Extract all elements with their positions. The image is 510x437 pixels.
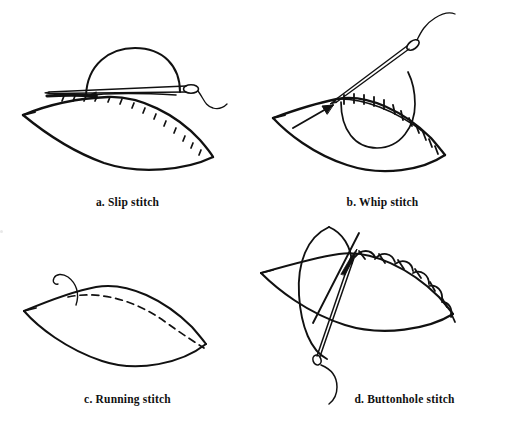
needle <box>312 249 357 366</box>
stitched-seam-dark <box>47 95 96 96</box>
stitch-tick <box>401 111 403 120</box>
needle-point <box>45 92 49 94</box>
needle-eye <box>405 38 421 53</box>
stitch-tick <box>143 108 145 113</box>
panel-slip-stitch: a. Slip stitch <box>0 0 255 218</box>
slip-stitch-illustration <box>0 0 255 190</box>
needle-shaft-top <box>335 46 407 100</box>
stitch-tick <box>154 114 156 119</box>
panel-caption-whip-stitch: b. Whip stitch <box>255 196 510 208</box>
arrow-head <box>322 105 333 114</box>
needle-shaft-bottom <box>49 92 186 94</box>
figure-root: a. Slip stitch <box>0 0 510 437</box>
thread-tail <box>417 13 455 40</box>
fabric-outline-upper <box>273 98 445 155</box>
fabric-outline-lower <box>24 311 206 366</box>
panel-buttonhole-stitch: d. Buttonhole stitch <box>255 219 510 437</box>
stitch-tick <box>132 103 134 108</box>
whip-stitch-illustration <box>255 0 510 190</box>
fabric-outline-upper <box>23 97 213 157</box>
needle <box>330 38 421 104</box>
panel-caption-slip-stitch: a. Slip stitch <box>0 196 255 208</box>
stitch-tick <box>174 128 176 133</box>
stitch-marks <box>62 96 201 155</box>
panel-whip-stitch: b. Whip stitch <box>255 0 510 218</box>
running-stitch-dashed-line <box>68 295 204 348</box>
stitch-tick <box>191 143 193 148</box>
needle-shaft-top <box>49 86 186 92</box>
needle-eye <box>184 85 199 93</box>
fabric-outline-lower <box>261 273 453 331</box>
needle <box>45 85 199 94</box>
thread-tail <box>53 274 77 305</box>
thread-loop <box>341 72 415 148</box>
fabric-outline-upper <box>261 253 453 314</box>
panel-caption-buttonhole-stitch: d. Buttonhole stitch <box>277 393 510 405</box>
stitch-tick <box>164 121 166 126</box>
stitch-tick <box>120 99 122 104</box>
thread-tail <box>198 91 227 109</box>
stitch-marks <box>355 251 455 322</box>
needle-shaft-right <box>320 258 354 357</box>
running-stitch-illustration <box>0 219 255 409</box>
seam-line <box>84 94 176 96</box>
thread-loop-right <box>329 227 352 263</box>
stitch-tick <box>183 136 185 141</box>
panel-running-stitch: c. Running stitch <box>0 219 255 437</box>
thread-loop <box>299 227 329 359</box>
fabric-outline-lower <box>23 115 213 170</box>
needle-shaft-bottom <box>336 49 409 103</box>
stitch-tick <box>199 150 201 155</box>
buttonhole-stitch-illustration <box>255 219 510 409</box>
panel-caption-running-stitch: c. Running stitch <box>0 393 255 405</box>
